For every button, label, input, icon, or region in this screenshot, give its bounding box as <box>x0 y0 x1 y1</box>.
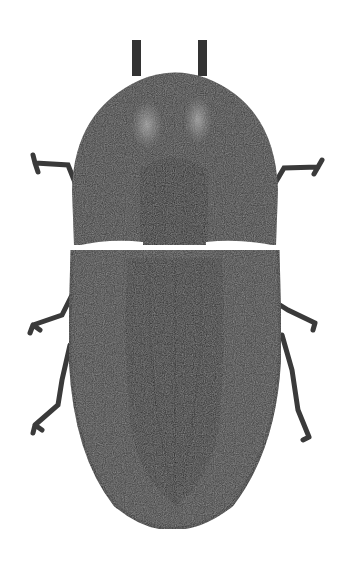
leg-mid-right <box>280 305 315 330</box>
pronotum-center <box>140 158 208 246</box>
elytra <box>70 250 280 528</box>
leg-hind-left <box>33 345 70 433</box>
beetle-illustration <box>0 0 345 565</box>
antennae <box>132 40 207 76</box>
leg-front-right <box>274 160 322 185</box>
leg-mid-left <box>30 295 72 333</box>
leg-hind-right <box>282 335 309 440</box>
pronotum-highlight-left <box>131 101 163 149</box>
leg-front-left <box>33 155 76 185</box>
antenna-left <box>132 40 141 76</box>
pronotum-highlight-right <box>184 96 212 144</box>
antenna-right <box>198 40 207 76</box>
pronotum <box>72 72 278 245</box>
